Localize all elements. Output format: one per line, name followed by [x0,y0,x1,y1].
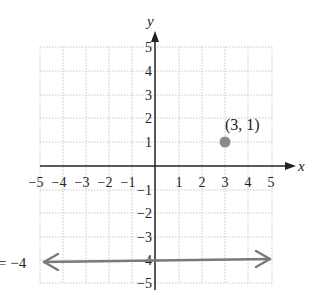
line-label: = −4 [0,255,27,271]
svg-text:−3: −3 [137,230,152,245]
coordinate-plane: x y −5 −4 −3 −2 −1 1 2 3 4 5 5 4 3 2 1 −… [0,0,318,295]
svg-text:1: 1 [176,175,183,190]
svg-text:5: 5 [145,40,152,55]
svg-text:5: 5 [268,175,275,190]
svg-text:−1: −1 [121,175,136,190]
point-label: (3, 1) [225,116,260,134]
svg-text:−3: −3 [75,175,90,190]
point-3-1 [220,137,231,148]
svg-text:2: 2 [145,111,152,126]
svg-text:−1: −1 [137,183,152,198]
svg-text:4: 4 [245,175,252,190]
svg-text:−5: −5 [29,175,44,190]
svg-text:3: 3 [145,88,152,103]
svg-text:3: 3 [222,175,229,190]
x-axis-label: x [297,158,305,174]
y-axis-label: y [145,13,154,29]
horizontal-line-y-neg4 [44,251,270,270]
y-axis-arrow-icon [151,31,159,42]
svg-text:−2: −2 [137,206,152,221]
svg-text:1: 1 [145,135,152,150]
x-axis [40,162,296,170]
svg-text:2: 2 [199,175,206,190]
svg-text:−5: −5 [137,276,152,291]
grid [40,47,272,283]
svg-text:−2: −2 [98,175,113,190]
svg-text:4: 4 [145,64,152,79]
svg-text:−4: −4 [52,175,67,190]
y-axis [151,31,159,290]
x-axis-arrow-icon [285,162,296,170]
